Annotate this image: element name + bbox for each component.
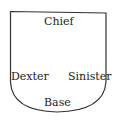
label-base: Base	[44, 97, 71, 108]
label-chief: Chief	[44, 16, 74, 27]
label-sinister: Sinister	[68, 71, 112, 82]
label-dexter: Dexter	[11, 71, 49, 82]
